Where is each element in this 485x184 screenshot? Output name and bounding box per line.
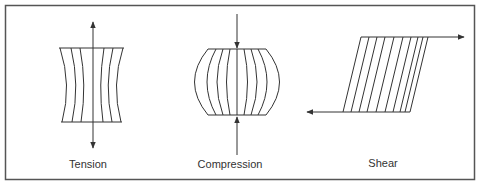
tension-figure (59, 22, 124, 148)
stress-types-diagram: Tension Compression Shear (0, 0, 485, 184)
shear-figure (307, 37, 464, 112)
tension-label: Tension (69, 158, 107, 170)
shear-label: Shear (368, 157, 398, 169)
compression-figure (195, 14, 280, 155)
compression-label: Compression (198, 158, 263, 170)
